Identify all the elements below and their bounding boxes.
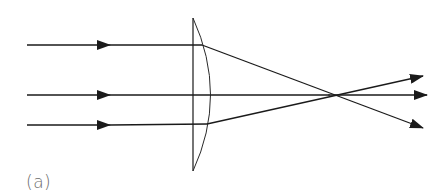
incoming-ray-bottom <box>27 124 207 125</box>
refracted-rays <box>202 45 427 128</box>
refracted-ray-top <box>202 45 423 128</box>
refracted-ray-bottom <box>207 76 423 124</box>
focal-point <box>328 94 330 96</box>
figure-label: (a) <box>26 172 51 192</box>
lens-ray-diagram <box>0 0 443 196</box>
incoming-rays <box>27 45 210 125</box>
